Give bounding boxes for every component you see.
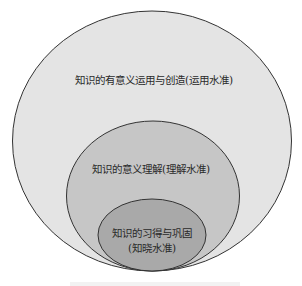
faded-caption-remnant <box>70 282 240 286</box>
inner-level-label-line2: (知晓水准) <box>128 242 176 254</box>
middle-level-label: 知识的意义理解(理解水准) <box>92 163 210 175</box>
inner-level-label-line1: 知识的习得与巩固 <box>112 227 192 239</box>
outer-level-label: 知识的有意义运用与创造(运用水准) <box>75 74 233 86</box>
nested-circle-diagram: 知识的有意义运用与创造(运用水准) 知识的意义理解(理解水准) 知识的习得与巩固… <box>0 0 302 286</box>
